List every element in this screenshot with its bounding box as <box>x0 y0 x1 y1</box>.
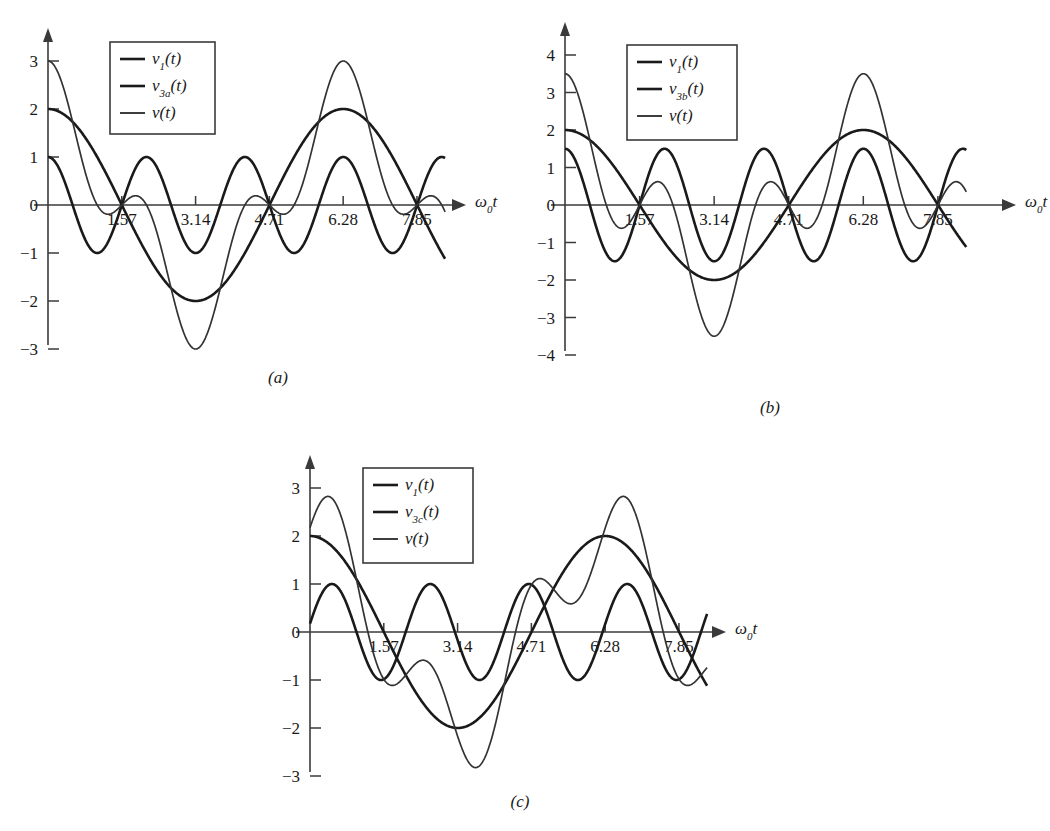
x-tick-label: 6.28 <box>848 210 878 229</box>
y-axis-arrowhead <box>560 22 570 36</box>
y-tick-label: −3 <box>282 767 300 786</box>
x-axis-label: ω0t <box>475 192 499 215</box>
y-tick-label: −2 <box>20 292 38 311</box>
y-tick-label: −3 <box>537 309 555 328</box>
x-tick-label: 3.14 <box>181 210 211 229</box>
legend-label-sum: v(t) <box>152 103 176 122</box>
y-tick-label: 1 <box>547 159 556 178</box>
y-tick-label: −1 <box>20 244 38 263</box>
y-tick-label: −2 <box>537 271 555 290</box>
panel-caption-a: (a) <box>248 368 308 388</box>
plot-area-a: 1.573.144.716.287.853210−1−2−3ω0tv1(t)v3… <box>0 0 500 400</box>
x-axis-arrowhead <box>712 626 726 638</box>
plot-area-b: 1.573.144.716.287.8543210−1−2−3−4ω0tv1(t… <box>505 0 1050 430</box>
y-tick-label: 0 <box>292 623 301 642</box>
y-axis-arrowhead <box>43 28 53 42</box>
y-tick-label: 1 <box>292 575 301 594</box>
legend-label-sum: v(t) <box>669 106 693 125</box>
y-tick-label: −4 <box>537 346 556 365</box>
y-tick-label: 3 <box>547 84 556 103</box>
panel-caption-b: (b) <box>740 398 800 418</box>
x-tick-label: 1.57 <box>625 210 655 229</box>
x-axis-arrowhead <box>452 199 466 211</box>
legend-label-sum: v(t) <box>405 529 429 548</box>
y-tick-label: −1 <box>537 234 555 253</box>
x-tick-label: 3.14 <box>699 210 729 229</box>
y-tick-label: 3 <box>30 52 39 71</box>
y-tick-label: 3 <box>292 479 301 498</box>
chart-panel-c: 1.573.144.716.287.853210−1−2−3ω0tv1(t)v3… <box>255 440 800 830</box>
y-tick-label: −1 <box>282 671 300 690</box>
x-axis-label: ω0t <box>735 619 759 642</box>
x-axis-arrowhead <box>1002 199 1016 211</box>
chart-panel-b: 1.573.144.716.287.8543210−1−2−3−4ω0tv1(t… <box>505 0 1050 430</box>
y-tick-label: 0 <box>547 196 556 215</box>
y-tick-label: 0 <box>30 196 39 215</box>
y-tick-label: −3 <box>20 340 38 359</box>
y-tick-label: −2 <box>282 719 300 738</box>
y-tick-label: 4 <box>547 46 556 65</box>
panel-caption-c: (c) <box>490 792 550 812</box>
y-tick-label: 2 <box>30 100 39 119</box>
x-tick-label: 6.28 <box>328 210 358 229</box>
x-axis-label: ω0t <box>1025 192 1049 215</box>
plot-area-c: 1.573.144.716.287.853210−1−2−3ω0tv1(t)v3… <box>255 440 800 830</box>
y-tick-label: 2 <box>547 121 556 140</box>
chart-panel-a: 1.573.144.716.287.853210−1−2−3ω0tv1(t)v3… <box>0 0 500 400</box>
y-tick-label: 1 <box>30 148 39 167</box>
y-tick-label: 2 <box>292 527 301 546</box>
y-axis-arrowhead <box>305 455 315 469</box>
